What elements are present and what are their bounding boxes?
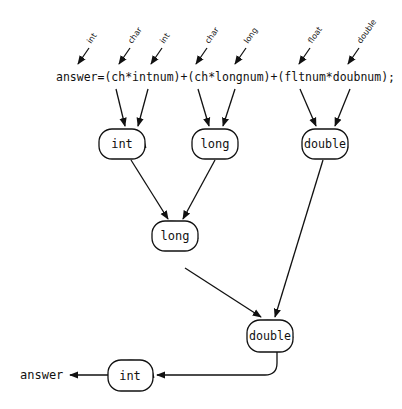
type-label-answer: int (78, 31, 99, 64)
node-label: double (304, 137, 346, 151)
type-promotion-diagram: int char int char long float double answ… (0, 0, 402, 409)
node-label: int (111, 137, 133, 151)
node-label: double (249, 329, 291, 343)
type-label-intnum: int (151, 31, 172, 64)
type-arrow (299, 48, 310, 64)
node-int-3: int (108, 360, 153, 391)
edge-int-to-long (131, 160, 168, 219)
type-arrow (348, 48, 359, 64)
type-arrow (119, 48, 130, 64)
edge-longnum-to-long (223, 89, 235, 126)
type-label-text: double (355, 18, 378, 46)
type-label-text: int (158, 31, 171, 45)
result-label: answer (20, 368, 63, 382)
node-double-2: double (247, 320, 293, 352)
type-label-ch1: char (119, 25, 144, 64)
node-double-1: double (302, 129, 348, 159)
node-label: int (119, 369, 141, 383)
type-arrow (151, 48, 162, 64)
edge-double-to-int (157, 352, 277, 375)
edge-double-to-double (275, 160, 323, 317)
expression-text: answer=(ch*intnum)+(ch*longnum)+(fltnum*… (56, 69, 395, 84)
type-label-doubnum: double (348, 18, 378, 64)
edge-doubnum-to-double (335, 89, 350, 126)
type-arrow (196, 48, 207, 64)
node-int-1: int (99, 129, 145, 159)
edge-fltnum-to-double (300, 89, 316, 126)
type-label-text: float (306, 25, 324, 45)
type-label-text: char (126, 25, 144, 45)
type-arrow (235, 48, 246, 64)
edge-intnum-to-int (138, 89, 148, 126)
node-long-1: long (192, 129, 238, 159)
edge-long-to-long (183, 160, 215, 219)
type-label-ch2: char (196, 25, 221, 64)
type-label-text: int (85, 31, 98, 45)
edge-long-to-double (185, 268, 261, 317)
type-arrow (78, 48, 89, 64)
node-long-2: long (152, 221, 198, 251)
type-label-text: long (242, 26, 259, 45)
edge-ch2-to-long (198, 89, 209, 126)
type-label-longnum: long (235, 26, 260, 64)
type-label-fltnum: float (299, 25, 324, 64)
node-label: long (201, 137, 230, 151)
type-label-text: char (203, 25, 221, 45)
operand-type-annotations: int char int char long float double (78, 18, 378, 64)
node-label: long (161, 229, 190, 243)
edge-ch1-to-int (116, 89, 125, 126)
